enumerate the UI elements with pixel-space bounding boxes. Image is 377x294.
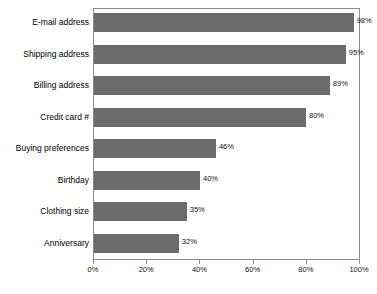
bar-row: 98% — [93, 8, 360, 40]
bar — [94, 76, 330, 95]
caption-remnant — [72, 283, 272, 291]
bar — [94, 45, 346, 64]
category-label: Clothing size — [0, 206, 89, 216]
bar-row: 35% — [93, 197, 360, 229]
x-tick-mark — [146, 260, 147, 264]
bar-row: 89% — [93, 71, 360, 103]
x-tick-mark — [199, 260, 200, 264]
x-tick-mark — [253, 260, 254, 264]
x-tick-mark — [306, 260, 307, 264]
x-tick-label: 40% — [192, 265, 207, 275]
bar-value-label: 32% — [182, 237, 197, 246]
bar — [94, 234, 179, 253]
bar-row: 32% — [93, 229, 360, 261]
x-tick-mark — [93, 260, 94, 264]
x-tick-mark — [359, 260, 360, 264]
category-label: Shipping address — [0, 49, 89, 59]
category-label: Buying preferences — [0, 143, 89, 153]
bar-value-label: 95% — [349, 48, 364, 57]
category-axis-labels: E-mail addressShipping addressBilling ad… — [0, 8, 89, 260]
bar-value-label: 80% — [309, 111, 324, 120]
bar-chart: E-mail addressShipping addressBilling ad… — [0, 0, 377, 294]
bar — [94, 171, 200, 190]
bar-value-label: 89% — [333, 79, 348, 88]
x-tick-label: 100% — [349, 265, 368, 275]
x-axis-tick-labels: 0%20%40%60%80%100% — [93, 265, 360, 277]
x-tick-label: 20% — [139, 265, 154, 275]
bar-row: 46% — [93, 134, 360, 166]
bar-row: 95% — [93, 40, 360, 72]
bar-value-label: 46% — [219, 142, 234, 151]
bar-row: 40% — [93, 166, 360, 198]
bar-value-label: 35% — [190, 205, 205, 214]
category-label: Anniversary — [0, 238, 89, 248]
x-tick-label: 60% — [245, 265, 260, 275]
bar — [94, 13, 354, 32]
x-tick-label: 0% — [88, 265, 99, 275]
bar-value-label: 40% — [203, 174, 218, 183]
x-tick-label: 80% — [298, 265, 313, 275]
category-label: Credit card # — [0, 112, 89, 122]
category-label: Billing address — [0, 80, 89, 90]
bar-series: 98%95%89%80%46%40%35%32% — [93, 8, 360, 260]
bar — [94, 139, 216, 158]
bar — [94, 108, 306, 127]
bar — [94, 202, 187, 221]
bar-value-label: 98% — [357, 16, 372, 25]
category-label: E-mail address — [0, 17, 89, 27]
bar-row: 80% — [93, 103, 360, 135]
category-label: Birthday — [0, 175, 89, 185]
